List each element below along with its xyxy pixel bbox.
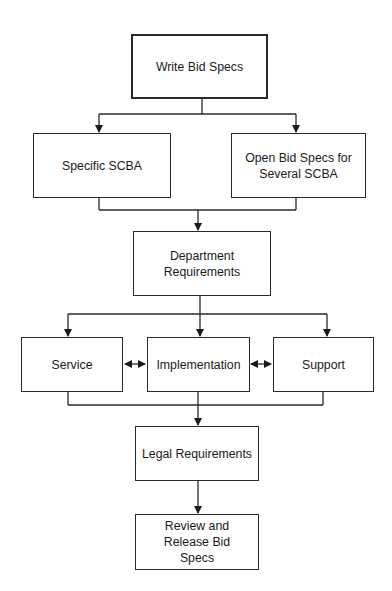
node-label: Support	[302, 357, 345, 373]
node-implementation: Implementation	[147, 337, 250, 392]
node-review-release: Review and Release Bid Specs	[135, 514, 259, 570]
node-department-requirements: Department Requirements	[133, 231, 271, 296]
node-service: Service	[21, 337, 123, 392]
node-label: Service	[51, 357, 92, 373]
node-label: Open Bid Specs for Several SCBA	[244, 150, 353, 182]
node-label: Implementation	[156, 357, 240, 373]
node-legal-requirements: Legal Requirements	[135, 426, 259, 481]
node-open-bid-specs: Open Bid Specs for Several SCBA	[231, 133, 366, 198]
node-label: Legal Requirements	[142, 446, 252, 462]
node-write-bid-specs: Write Bid Specs	[131, 34, 268, 99]
node-specific-scba: Specific SCBA	[33, 133, 171, 198]
node-label: Write Bid Specs	[156, 59, 243, 75]
node-support: Support	[273, 337, 374, 392]
node-label: Specific SCBA	[62, 158, 142, 174]
node-label: Review and Release Bid Specs	[146, 518, 248, 566]
node-label: Department Requirements	[154, 248, 250, 280]
